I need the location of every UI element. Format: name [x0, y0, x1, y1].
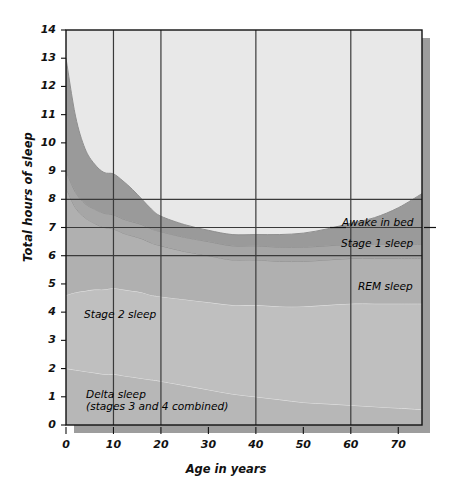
- y-tick-label: 8: [30, 192, 56, 205]
- y-tick-label: 3: [30, 333, 56, 346]
- y-tick-label: 7: [30, 221, 56, 234]
- band-label-awake-in-bed: Awake in bed: [342, 216, 413, 229]
- y-tick-label: 0: [30, 418, 56, 431]
- y-tick-label: 13: [30, 51, 56, 64]
- y-tick-label: 12: [30, 79, 56, 92]
- y-tick-label: 10: [30, 136, 56, 149]
- x-tick-label: 60: [336, 438, 366, 451]
- band-label-rem-sleep: REM sleep: [358, 280, 413, 293]
- x-tick-label: 40: [241, 438, 271, 451]
- x-tick-label: 10: [98, 438, 128, 451]
- x-tick-label: 30: [193, 438, 223, 451]
- y-tick-label: 9: [30, 164, 56, 177]
- sleep-stages-chart: Total hours of sleep Age in years 141312…: [0, 0, 452, 493]
- y-tick-label: 6: [30, 249, 56, 262]
- y-tick-label: 4: [30, 305, 56, 318]
- band-label-stage-2-sleep: Stage 2 sleep: [84, 308, 156, 321]
- band-label-stage-1-sleep: Stage 1 sleep: [341, 237, 413, 250]
- x-tick-label: 70: [383, 438, 413, 451]
- y-tick-label: 14: [30, 23, 56, 36]
- band-label-delta-sleep-line2: (stages 3 and 4 combined): [86, 400, 228, 413]
- x-tick-label: 20: [146, 438, 176, 451]
- y-tick-label: 11: [30, 108, 56, 121]
- y-tick-label: 5: [30, 277, 56, 290]
- x-tick-label: 50: [288, 438, 318, 451]
- band-label-delta-sleep-line1: Delta sleep: [86, 388, 146, 401]
- x-axis-title: Age in years: [0, 462, 452, 476]
- x-tick-label: 0: [51, 438, 81, 451]
- y-tick-label: 2: [30, 362, 56, 375]
- y-tick-label: 1: [30, 390, 56, 403]
